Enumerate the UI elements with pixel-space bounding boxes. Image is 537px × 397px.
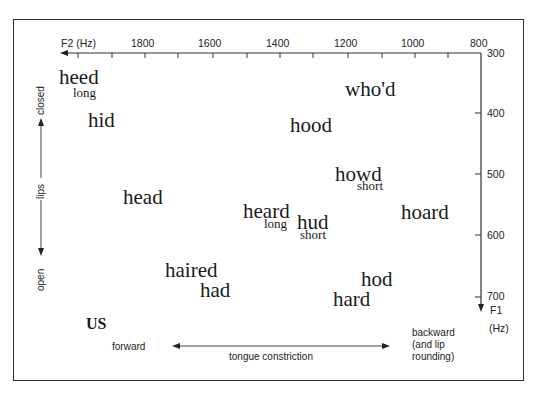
lip-rounding-label-2: rounding) [412,351,454,362]
y-tick-700: 700 [487,290,505,302]
backward-label: backward [412,327,455,338]
x-tick-1200: 1200 [334,37,357,49]
x-axis-label: F2 (Hz) [61,37,96,49]
left-arrow-icon [172,343,180,349]
up-arrow-icon [38,118,44,126]
right-arrow-icon [382,343,390,349]
y-tick-400: 400 [487,107,505,119]
word-howd-sub: short [357,179,383,192]
lips-closed-label: closed [35,86,46,115]
x-tick-1400: 1400 [266,37,289,49]
lip-rounding-label-1: (and lip [412,339,445,350]
us-label: US [86,316,106,332]
x-tick-800: 800 [470,37,488,49]
x-tick-1800: 1800 [131,37,154,49]
f1-arrow-icon [478,304,484,312]
y-axis-label: F1 [490,304,502,316]
lips-open-label: open [35,269,46,291]
word-hud-sub: short [300,228,326,241]
word-hoard: hoard [401,202,449,223]
forward-label: forward [112,341,145,352]
word-whod: who'd [345,79,395,100]
x-tick-1600: 1600 [198,37,221,49]
tongue-constriction-label: tongue constriction [229,351,313,362]
y-tick-600: 600 [487,229,505,241]
lips-label: lips [35,184,46,199]
word-had: had [200,280,230,301]
word-heed-sub: long [73,86,96,99]
y-axis-unit: (Hz) [489,322,509,334]
word-hid: hid [88,110,115,131]
word-head: head [123,187,163,208]
y-tick-300: 300 [487,47,505,59]
word-hard: hard [333,289,370,310]
y-tick-500: 500 [487,168,505,180]
word-heard-sub: long [264,217,287,230]
x-tick-1000: 1000 [401,37,424,49]
vowel-chart-figure: F2 (Hz) 1800 1600 1400 1200 1000 800 300… [0,0,537,397]
word-hood: hood [290,115,332,136]
down-arrow-icon [38,248,44,256]
f2-arrow-icon [60,50,68,56]
